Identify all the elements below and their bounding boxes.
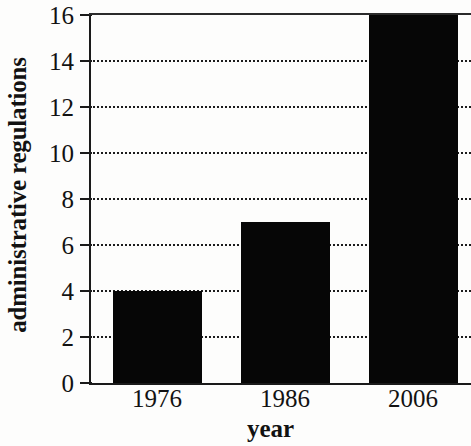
y-tick-label: 8 [62, 187, 75, 212]
y-axis-title-text: administrative regulations [4, 57, 32, 333]
bar [369, 15, 458, 383]
y-tick-label: 4 [62, 279, 75, 304]
y-tick-label: 10 [49, 141, 74, 166]
bar [241, 222, 330, 383]
y-tick-label: 6 [62, 233, 75, 258]
bar [113, 291, 202, 383]
y-tick-label: 16 [49, 3, 74, 28]
x-axis-title-text: year [247, 415, 294, 443]
y-axis-tick-labels: 0246810121416 [36, 0, 80, 400]
x-axis-title: year [0, 415, 471, 443]
y-tick-label: 14 [49, 49, 74, 74]
x-tick-label: 2006 [388, 386, 438, 411]
y-tick-label: 2 [62, 325, 75, 350]
x-axis-tick-labels: 197619862006 [0, 386, 471, 418]
y-axis-title: administrative regulations [0, 0, 36, 390]
plot-area [89, 15, 471, 383]
bar-chart: administrative regulations 0246810121416… [0, 0, 471, 446]
x-tick-label: 1976 [132, 386, 182, 411]
x-tick-label: 1986 [260, 386, 310, 411]
y-tick-label: 12 [49, 95, 74, 120]
